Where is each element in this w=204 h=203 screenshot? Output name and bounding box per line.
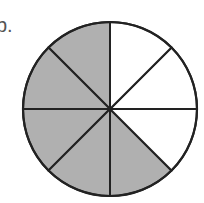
fraction-circle (0, 0, 204, 203)
center-point (108, 107, 112, 111)
